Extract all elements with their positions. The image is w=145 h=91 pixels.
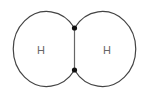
shared-electron-top [72,25,77,30]
h2-molecule-diagram: H H [0,0,145,91]
atom-label-right: H [103,44,111,56]
shared-electron-bottom [72,67,77,72]
atom-label-left: H [37,44,45,56]
